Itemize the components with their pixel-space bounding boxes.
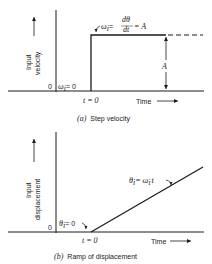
step-equation-end: = A bbox=[134, 22, 146, 31]
x-label: Time bbox=[151, 238, 166, 245]
panel-step-velocity: A Input velocity 0 ωi= 0 ωi= dθ dt = A t… bbox=[8, 10, 204, 123]
x-label: Time bbox=[136, 98, 151, 105]
ramp-pointer bbox=[166, 180, 171, 185]
amplitude-label: A bbox=[161, 62, 167, 71]
caption-b: (b)Ramp of displacement bbox=[54, 252, 137, 261]
y-label-line2: displacement bbox=[34, 179, 42, 220]
ramp-equation: θi= ωit bbox=[129, 176, 154, 187]
y-label-line1: Input bbox=[25, 182, 33, 198]
origin-label: 0 bbox=[48, 83, 52, 90]
deriv-denominator: dt bbox=[123, 25, 130, 34]
initial-label: θi= 0 bbox=[59, 219, 75, 230]
y-label-line2: velocity bbox=[34, 51, 42, 75]
t0-label: t = 0 bbox=[83, 96, 99, 105]
step-curve bbox=[91, 35, 166, 91]
panel-ramp-displacement: Input displacement 0 θi= 0 θi= ωit t = 0… bbox=[8, 132, 204, 261]
origin-label: 0 bbox=[48, 224, 52, 231]
caption-a: (a)Step velocity bbox=[77, 114, 131, 123]
deriv-numerator: dθ bbox=[122, 15, 130, 24]
annotation-pointer bbox=[96, 26, 100, 32]
y-label-line1: Input bbox=[25, 54, 33, 70]
diagram: A Input velocity 0 ωi= 0 ωi= dθ dt = A t… bbox=[0, 0, 212, 264]
initial-pointer bbox=[82, 223, 86, 229]
t0-label: t = 0 bbox=[82, 236, 98, 245]
step-equation: ωi= bbox=[101, 22, 113, 33]
